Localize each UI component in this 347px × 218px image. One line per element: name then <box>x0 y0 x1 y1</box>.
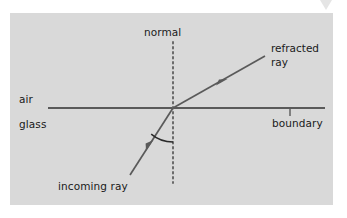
refraction-diagram: normal refracted ray air glass boundary … <box>0 0 347 218</box>
refracted-ray-label-line1: refracted <box>271 42 319 54</box>
normal-label: normal <box>144 26 181 38</box>
boundary-label: boundary <box>272 117 323 129</box>
diagram-stage: normal refracted ray air glass boundary … <box>0 0 347 218</box>
refracted-ray-label-line2: ray <box>271 56 288 68</box>
corner-triangle-icon <box>320 0 332 10</box>
incoming-ray-label: incoming ray <box>58 180 128 192</box>
glass-label: glass <box>19 118 46 130</box>
air-label: air <box>19 93 34 105</box>
